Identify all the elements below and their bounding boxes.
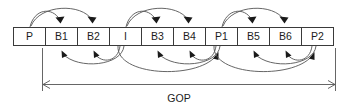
arrowhead-i-to-b3 — [152, 17, 161, 24]
gop-label: GOP — [167, 92, 190, 104]
frame-label: P1 — [215, 30, 228, 42]
arc-p-to-b1 — [30, 11, 60, 27]
arrowhead-p1-to-b6 — [280, 17, 289, 24]
arc-i-to-b1 — [63, 46, 124, 64]
arc-p1-to-p2 — [214, 46, 312, 72]
frame-label: I — [124, 30, 127, 42]
frame-box-p1[interactable]: P1 — [206, 28, 238, 46]
arrowhead-p1-to-b5 — [248, 17, 257, 24]
frame-sequence: P B1 B2 I B3 B4 — [14, 28, 334, 46]
arrowhead-i-to-b4 — [184, 17, 193, 24]
arc-p1-to-b5 — [222, 11, 252, 27]
forward-prediction-arcs — [30, 8, 289, 27]
frame-box-i[interactable]: I — [110, 28, 142, 46]
gop-diagram-page: P B1 B2 I B3 B4 — [0, 0, 347, 107]
frame-label: B5 — [247, 30, 260, 42]
arrowhead-p-to-b2 — [88, 17, 97, 24]
frame-label: B6 — [279, 30, 292, 42]
arrowhead-p1-to-b4 — [190, 51, 196, 59]
arrowhead-i-to-b2 — [94, 51, 100, 59]
arc-i-to-p1 — [118, 46, 216, 72]
frame-box-b3[interactable]: B3 — [142, 28, 174, 46]
frame-label: B4 — [183, 30, 196, 42]
frame-box-b6[interactable]: B6 — [270, 28, 302, 46]
frame-box-b2[interactable]: B2 — [78, 28, 110, 46]
frame-label: B2 — [87, 30, 100, 42]
gop-diagram: P B1 B2 I B3 B4 — [0, 0, 347, 107]
frame-box-p2[interactable]: P2 — [302, 28, 334, 46]
frame-box-p[interactable]: P — [14, 28, 46, 46]
frame-label: B3 — [151, 30, 164, 42]
frame-label: B1 — [55, 30, 68, 42]
arrowhead-p2-to-b6 — [286, 51, 292, 59]
frame-label: P — [26, 30, 33, 42]
frame-label: P2 — [311, 30, 324, 42]
frame-box-b1[interactable]: B1 — [46, 28, 78, 46]
gop-span: GOP — [43, 48, 336, 104]
frame-box-b4[interactable]: B4 — [174, 28, 206, 46]
backward-prediction-arcs — [62, 46, 317, 72]
arc-i-to-b3 — [126, 11, 156, 27]
frame-box-b5[interactable]: B5 — [238, 28, 270, 46]
arrowhead-p-to-b1 — [56, 17, 65, 24]
